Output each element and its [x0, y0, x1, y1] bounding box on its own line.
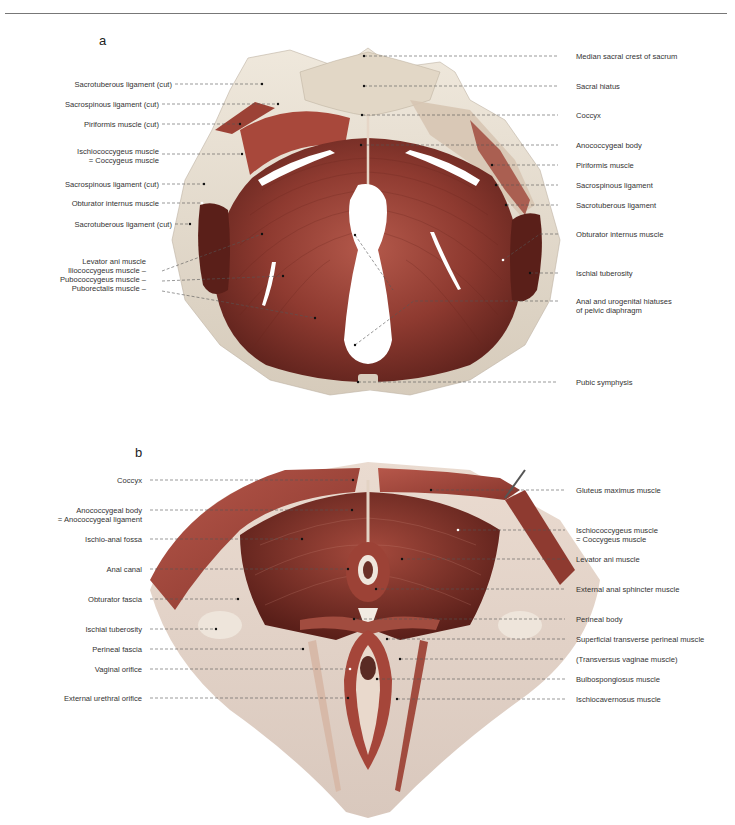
perineum-inferior-view [150, 462, 600, 818]
label-a-sacrotuberous: Sacrotuberous ligament [576, 201, 656, 210]
label-b-external-urethral-orifice: External urethral orifice [64, 694, 142, 703]
levator-ani-title: Levator ani muscle [60, 257, 146, 266]
label-b-bulbospongiosus: Bulbospongiosus muscle [576, 675, 660, 684]
iliococcygeus-label: Iliococcygeus muscle – [60, 266, 146, 275]
label-a-ischial-tuberosity: Ischial tuberosity [576, 269, 633, 278]
label-a-hiatuses: Anal and urogenital hiatusesof pelvic di… [576, 297, 672, 315]
label-a-sacrospinous: Sacrospinous ligament [576, 181, 653, 190]
label-a-sacrotuberous-cut-2: Sacrotuberous ligament (cut) [75, 220, 173, 229]
label-a-sacral-hiatus: Sacral hiatus [576, 82, 620, 91]
label-a-levator-ani-group: Levator ani muscle Iliococcygeus muscle … [60, 257, 146, 293]
label-b-coccyx: Coccyx [117, 476, 142, 485]
label-a-obturator-internus-right: Obturator internus muscle [576, 230, 663, 239]
label-a-piriformis: Piriformis muscle [576, 161, 634, 170]
label-b-perineal-fascia: Perineal fascia [92, 645, 142, 654]
label-b-anococcygeal-body: Anococcygeal body= Anococcygeal ligament [58, 506, 142, 524]
label-b-transversus-vaginae: (Transversus vaginae muscle) [576, 655, 677, 664]
label-a-sacrospinous-cut-2: Sacrospinous ligament (cut) [65, 180, 159, 189]
pelvic-floor-superior-view [172, 48, 560, 395]
label-a-sacrotuberous-cut: Sacrotuberous ligament (cut) [75, 80, 173, 89]
label-b-ischiocavernosus: Ischiocavernosus muscle [576, 695, 661, 704]
label-a-obturator-internus: Obturator internus muscle [72, 199, 159, 208]
label-a-anococcygeal-body: Anococcygeal body [576, 141, 642, 150]
pubococcygeus-label: Pubococcygeus muscle – [60, 275, 146, 284]
label-a-pubic-symphysis: Pubic symphysis [576, 378, 633, 387]
label-b-external-anal-sphincter: External anal sphincter muscle [576, 585, 679, 594]
label-b-ischio-anal-fossa: Ischio-anal fossa [85, 535, 142, 544]
label-a-median-sacral-crest: Median sacral crest of sacrum [576, 52, 677, 61]
label-b-obturator-fascia: Obturator fascia [88, 595, 142, 604]
label-b-levator-ani: Levator ani muscle [576, 555, 640, 564]
label-a-sacrospinous-cut: Sacrospinous ligament (cut) [65, 100, 159, 109]
label-b-ischiococcygeus: Ischiococcygeus muscle= Coccygeus muscle [576, 526, 658, 544]
label-a-ischiococcygeus: Ischiococcygeus muscle= Coccygeus muscle [77, 147, 159, 165]
puborectalis-label: Puborectalis muscle – [60, 284, 146, 293]
label-a-piriformis-cut: Piriformis muscle (cut) [84, 120, 159, 129]
label-a-coccyx: Coccyx [576, 111, 601, 120]
label-b-perineal-body: Perineal body [576, 615, 622, 624]
label-b-vaginal-orifice: Vaginal orifice [95, 665, 142, 674]
label-b-ischial-tuberosity: Ischial tuberosity [85, 625, 142, 634]
label-b-gluteus-maximus: Gluteus maximus muscle [576, 486, 661, 495]
label-b-anal-canal: Anal canal [107, 565, 142, 574]
label-b-superficial-transverse-perineal: Superficial transverse perineal muscle [576, 635, 704, 644]
